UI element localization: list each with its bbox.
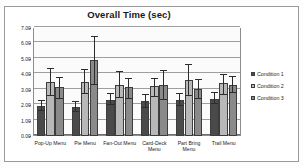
- legend-swatch-icon: [251, 72, 255, 76]
- error-bar: [154, 79, 155, 97]
- error-bar-cap: [142, 94, 149, 95]
- y-tick-label: 4.00: [7, 71, 31, 77]
- error-bar-cap: [91, 84, 98, 85]
- error-bar: [145, 95, 146, 108]
- legend-item: Condition 1: [251, 69, 303, 78]
- error-bar-cap: [47, 95, 54, 96]
- legend-label: Condition 3: [257, 95, 284, 101]
- error-bar-cap: [211, 92, 218, 93]
- error-bar-cap: [195, 98, 202, 99]
- y-tick-label: 2.00: [7, 102, 31, 108]
- error-bar-cap: [151, 78, 158, 79]
- error-bar-cap: [220, 74, 227, 75]
- chart-frame: Overall Time (sec) 7.006.005.004.003.002…: [4, 6, 299, 162]
- error-bar-cap: [116, 71, 123, 72]
- error-bar-cap: [160, 70, 167, 71]
- bar-group: [102, 28, 137, 136]
- chart-title: Overall Time (sec): [5, 9, 253, 20]
- error-bar-cap: [195, 79, 202, 80]
- y-tick-mark: [29, 28, 31, 29]
- x-tick-label: Pop-Up Menu: [33, 140, 68, 146]
- error-bar-cap: [56, 77, 63, 78]
- error-bar-cap: [107, 104, 114, 105]
- error-bar: [232, 77, 233, 93]
- error-bar-cap: [176, 93, 183, 94]
- error-bar-cap: [229, 76, 236, 77]
- error-bar-cap: [125, 98, 132, 99]
- y-tick-mark: [29, 90, 31, 91]
- error-bar-cap: [72, 111, 79, 112]
- x-tick-label: Pie Menu: [68, 140, 103, 146]
- error-bar-cap: [211, 103, 218, 104]
- legend-label: Condition 1: [257, 71, 284, 77]
- error-bar-cap: [220, 94, 227, 95]
- bar-group: [206, 28, 241, 136]
- x-tick-label: Card-DeckMenu: [137, 140, 172, 152]
- error-bar-cap: [81, 69, 88, 70]
- legend-swatch-icon: [251, 84, 255, 88]
- error-bar-cap: [72, 101, 79, 102]
- error-bar: [188, 65, 189, 95]
- error-bar-cap: [185, 95, 192, 96]
- error-bar: [198, 80, 199, 99]
- x-tick-label: Part BringMenu: [172, 140, 207, 152]
- legend-swatch-icon: [251, 96, 255, 100]
- error-bar-cap: [160, 99, 167, 100]
- error-bar: [84, 70, 85, 95]
- bar-group: [172, 28, 207, 136]
- legend-item: Condition 3: [251, 93, 303, 102]
- error-bar-cap: [56, 98, 63, 99]
- y-tick-label: 6.00: [7, 40, 31, 46]
- y-tick-mark: [29, 59, 31, 60]
- bars-layer: [33, 28, 241, 136]
- error-bar-cap: [142, 107, 149, 108]
- y-tick-mark: [29, 43, 31, 44]
- error-bar-cap: [38, 100, 45, 101]
- error-bar-cap: [185, 64, 192, 65]
- error-bar-cap: [125, 78, 132, 79]
- x-tick-label: Fan-Out Menu: [102, 140, 137, 146]
- error-bar: [163, 71, 164, 100]
- error-bar-cap: [229, 92, 236, 93]
- error-bar-cap: [176, 105, 183, 106]
- error-bar: [223, 75, 224, 95]
- y-tick-label: 5.00: [7, 56, 31, 62]
- y-tick-mark: [29, 105, 31, 106]
- y-tick-label: 0.00: [7, 133, 31, 139]
- error-bar: [59, 78, 60, 99]
- y-tick-label: 7.00: [7, 25, 31, 31]
- error-bar-cap: [47, 68, 54, 69]
- bar-group: [68, 28, 103, 136]
- error-bar: [50, 69, 51, 95]
- x-axis: Pop-Up MenuPie MenuFan-Out MenuCard-Deck…: [33, 138, 241, 162]
- error-bar-cap: [151, 96, 158, 97]
- legend-item: Condition 2: [251, 81, 303, 90]
- legend-label: Condition 2: [257, 83, 284, 89]
- error-bar: [128, 79, 129, 99]
- y-tick-mark: [29, 136, 31, 137]
- error-bar-cap: [91, 36, 98, 37]
- y-axis: 7.006.005.004.003.002.001.000.00: [5, 28, 31, 136]
- error-bar-cap: [116, 97, 123, 98]
- bar: [210, 99, 218, 136]
- gridline: [34, 26, 240, 27]
- bar-group: [33, 28, 68, 136]
- error-bar-cap: [38, 110, 45, 111]
- error-bar-cap: [107, 93, 114, 94]
- y-tick-mark: [29, 121, 31, 122]
- error-bar: [119, 72, 120, 99]
- bar-group: [137, 28, 172, 136]
- y-tick-mark: [29, 74, 31, 75]
- x-tick-label: Trail Menu: [206, 140, 241, 146]
- y-tick-label: 1.00: [7, 118, 31, 124]
- chart-screenshot: Overall Time (sec) 7.006.005.004.003.002…: [0, 0, 303, 167]
- error-bar: [94, 37, 95, 86]
- error-bar-cap: [81, 93, 88, 94]
- chart-legend: Condition 1Condition 2Condition 3: [251, 69, 303, 105]
- y-tick-label: 3.00: [7, 87, 31, 93]
